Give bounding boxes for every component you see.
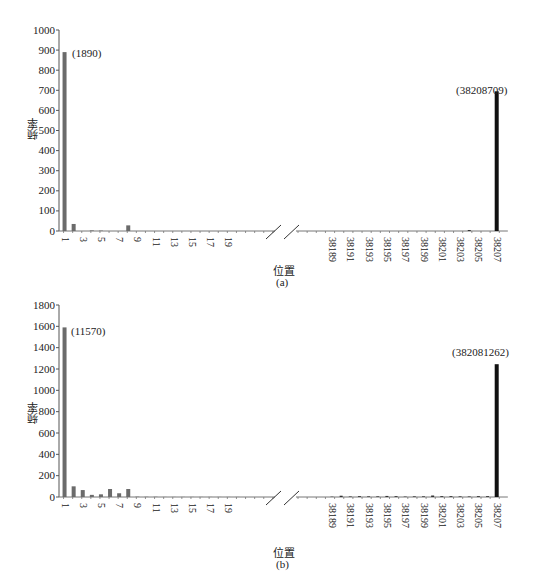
bar [126, 225, 130, 231]
bar [422, 496, 425, 497]
svg-text:3: 3 [78, 237, 89, 242]
svg-text:9: 9 [132, 237, 143, 242]
svg-text:0: 0 [50, 491, 56, 503]
svg-text:7: 7 [114, 237, 125, 242]
svg-text:38193: 38193 [364, 503, 375, 528]
svg-text:1400: 1400 [33, 341, 56, 353]
bar [495, 91, 499, 231]
svg-text:800: 800 [39, 64, 56, 76]
bar [117, 493, 121, 497]
svg-text:38201: 38201 [437, 503, 448, 528]
svg-text:38201: 38201 [437, 237, 448, 262]
bar [108, 489, 112, 497]
annotation-left: (1890) [72, 47, 101, 59]
svg-text:15: 15 [187, 503, 198, 513]
svg-text:9: 9 [132, 503, 143, 508]
chart-b: 0200400600800100012001400160018001357911… [0, 290, 538, 572]
y-axis-label: 频率 [26, 402, 42, 424]
svg-text:38203: 38203 [455, 237, 466, 262]
svg-text:1000: 1000 [33, 24, 56, 36]
annotation-right: (382081262) [452, 346, 509, 358]
svg-text:13: 13 [169, 503, 180, 513]
svg-text:38193: 38193 [364, 237, 375, 262]
svg-text:3: 3 [78, 503, 89, 508]
bar [72, 224, 76, 231]
svg-text:400: 400 [39, 144, 56, 156]
svg-text:38195: 38195 [382, 503, 393, 528]
svg-text:11: 11 [151, 503, 162, 513]
svg-text:38197: 38197 [400, 237, 411, 262]
svg-text:38203: 38203 [455, 503, 466, 528]
chart-a: 0100200300400500600700800900100013579111… [0, 0, 538, 290]
svg-text:7: 7 [114, 503, 125, 508]
svg-text:38207: 38207 [492, 237, 503, 262]
bar [486, 496, 489, 497]
svg-text:5: 5 [96, 503, 107, 508]
svg-text:1800: 1800 [33, 299, 56, 311]
svg-text:600: 600 [39, 104, 56, 116]
bar [90, 230, 94, 231]
svg-text:38205: 38205 [473, 237, 484, 262]
svg-text:19: 19 [223, 237, 234, 247]
svg-text:15: 15 [187, 237, 198, 247]
svg-text:400: 400 [39, 448, 56, 460]
svg-text:38199: 38199 [419, 237, 430, 262]
svg-text:5: 5 [96, 237, 107, 242]
bar [468, 230, 471, 231]
bar [376, 496, 379, 497]
bar [385, 496, 388, 497]
bar [395, 496, 398, 497]
bar [367, 496, 370, 497]
chart-caption: (b) [276, 558, 289, 570]
svg-text:1: 1 [60, 503, 71, 508]
svg-text:1600: 1600 [33, 320, 56, 332]
bar [90, 495, 94, 497]
svg-text:38195: 38195 [382, 237, 393, 262]
y-axis-label: 频率 [26, 118, 42, 140]
bar [81, 490, 85, 497]
bar [340, 496, 343, 497]
annotation-right: (38208709) [456, 84, 507, 96]
svg-text:1200: 1200 [33, 363, 56, 375]
svg-text:900: 900 [39, 44, 56, 56]
svg-text:700: 700 [39, 84, 56, 96]
svg-text:38205: 38205 [473, 503, 484, 528]
svg-text:300: 300 [39, 164, 56, 176]
svg-text:1: 1 [60, 237, 71, 242]
svg-text:38207: 38207 [492, 503, 503, 528]
bar [440, 496, 443, 497]
bar [459, 496, 462, 497]
svg-text:19: 19 [223, 503, 234, 513]
bar [431, 496, 434, 497]
bar [349, 496, 352, 497]
annotation-left: (11570) [71, 325, 105, 337]
svg-text:38199: 38199 [419, 503, 430, 528]
bar [72, 486, 76, 497]
bar [477, 496, 480, 497]
svg-text:200: 200 [39, 469, 56, 481]
bar [358, 496, 361, 497]
bar [413, 496, 416, 497]
svg-text:13: 13 [169, 237, 180, 247]
svg-text:38191: 38191 [345, 503, 356, 528]
svg-text:38189: 38189 [327, 503, 338, 528]
svg-text:1000: 1000 [33, 384, 56, 396]
svg-text:38197: 38197 [400, 503, 411, 528]
bar [99, 494, 103, 497]
bar [449, 496, 452, 497]
svg-text:38191: 38191 [345, 237, 356, 262]
svg-text:200: 200 [39, 184, 56, 196]
svg-text:11: 11 [151, 237, 162, 247]
bar [63, 327, 67, 497]
bar [126, 489, 130, 497]
svg-text:600: 600 [39, 427, 56, 439]
svg-text:100: 100 [39, 204, 56, 216]
bar [495, 364, 499, 497]
svg-text:0: 0 [50, 225, 56, 237]
svg-text:17: 17 [205, 237, 216, 247]
svg-text:38189: 38189 [327, 237, 338, 262]
bar [63, 52, 67, 231]
chart-caption: (a) [276, 276, 288, 288]
bar [468, 496, 471, 497]
svg-text:17: 17 [205, 503, 216, 513]
